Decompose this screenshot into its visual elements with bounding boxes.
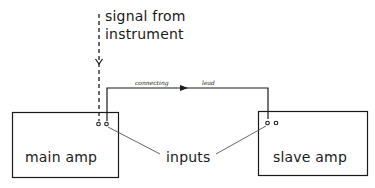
signal-label-line1: signal from <box>105 9 186 23</box>
slave-input-jack-2-icon <box>274 121 278 125</box>
connecting-lead-line <box>107 88 268 121</box>
lead-label-connecting: connecting <box>135 80 169 86</box>
lead-label-lead: lead <box>202 80 215 86</box>
inputs-leader-line-main <box>108 127 160 154</box>
inputs-label: inputs <box>166 150 211 164</box>
main-amp-label: main amp <box>25 150 97 164</box>
lead-arrow-icon <box>180 85 188 91</box>
main-input-jack-2-icon <box>105 122 109 126</box>
slave-amp-label: slave amp <box>273 150 347 164</box>
main-amp-box <box>13 113 119 178</box>
slave-input-jack-1-icon <box>266 121 270 125</box>
main-input-jack-1-icon <box>97 122 101 126</box>
signal-label-line2: instrument <box>105 27 184 41</box>
